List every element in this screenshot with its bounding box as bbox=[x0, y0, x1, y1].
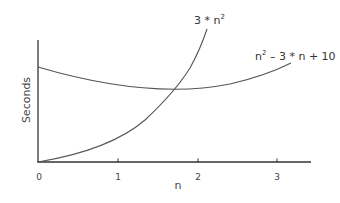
x-tick-label-0: 0 bbox=[36, 172, 42, 182]
chart: 0 1 2 3 n Seconds 3 * n2 n2 – 3 * n + 10 bbox=[0, 0, 340, 203]
curve-quadratic bbox=[38, 63, 291, 89]
curve-3n-squared bbox=[38, 29, 207, 162]
x-axis-title: n bbox=[175, 179, 182, 192]
y-axis-title: Seconds bbox=[20, 77, 33, 123]
curve-label-3n-squared: 3 * n2 bbox=[194, 13, 225, 27]
x-tick-label-2: 2 bbox=[195, 172, 201, 182]
x-tick-label-3: 3 bbox=[274, 172, 280, 182]
x-tick-label-1: 1 bbox=[115, 172, 121, 182]
curve-label-quadratic: n2 – 3 * n + 10 bbox=[255, 49, 336, 63]
